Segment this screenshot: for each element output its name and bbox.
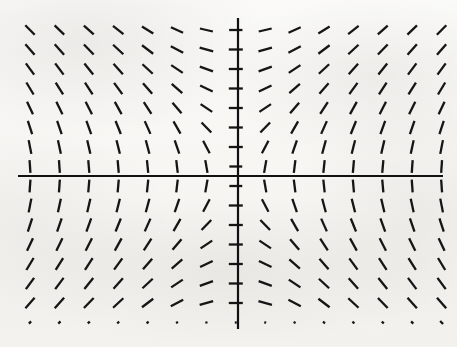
direction-element [88, 322, 90, 324]
direction-element [144, 102, 152, 114]
direction-element [56, 83, 63, 95]
direction-element [322, 199, 326, 213]
direction-element [321, 219, 327, 232]
direction-element [439, 102, 445, 115]
direction-element [410, 218, 415, 231]
direction-element [146, 199, 150, 213]
direction-element [352, 140, 355, 154]
direction-element [320, 239, 328, 251]
direction-element [259, 261, 272, 267]
direction-element [409, 102, 415, 115]
direction-element [408, 63, 416, 74]
direction-element [264, 160, 266, 173]
direction-element [380, 238, 386, 250]
direction-element [258, 301, 271, 305]
direction-element [84, 298, 94, 308]
direction-element [407, 25, 417, 34]
direction-element [146, 140, 150, 154]
direction-element [205, 160, 207, 173]
slope-field-plot [0, 0, 457, 347]
direction-element [290, 239, 299, 250]
direction-element [259, 104, 271, 112]
direction-element [171, 46, 183, 53]
direction-element [84, 44, 94, 54]
direction-element [172, 84, 183, 93]
direction-element [86, 121, 91, 134]
direction-element [87, 140, 90, 154]
direction-element [351, 219, 356, 232]
direction-element [113, 298, 123, 308]
direction-element [262, 199, 269, 211]
direction-element [29, 199, 32, 213]
direction-element [349, 64, 358, 74]
direction-element [56, 238, 62, 251]
direction-element [28, 121, 32, 134]
direction-element [55, 25, 65, 34]
direction-element [322, 140, 326, 154]
direction-element [411, 140, 414, 154]
direction-element [117, 199, 120, 213]
direction-element [289, 27, 301, 32]
direction-element [411, 321, 413, 323]
direction-element [205, 180, 207, 193]
direction-element [118, 160, 119, 173]
direction-element [142, 45, 153, 53]
direction-element [441, 160, 442, 173]
direction-element [318, 26, 329, 33]
direction-element [259, 67, 272, 72]
direction-element [55, 298, 64, 308]
direction-element [260, 220, 270, 230]
direction-element [441, 180, 442, 193]
direction-element [176, 160, 178, 173]
direction-element [323, 322, 325, 323]
direction-element [349, 83, 357, 94]
direction-element [172, 259, 183, 268]
direction-element [318, 45, 329, 53]
direction-element [382, 180, 383, 193]
direction-element [174, 219, 181, 231]
direction-element [200, 281, 213, 286]
direction-element [259, 241, 271, 249]
direction-element [323, 180, 324, 193]
direction-element [175, 140, 180, 153]
direction-element [378, 278, 387, 289]
direction-element [55, 63, 63, 74]
direction-element [84, 64, 93, 75]
direction-element [292, 140, 297, 153]
direction-element [294, 322, 296, 323]
direction-element [348, 298, 358, 308]
direction-element [87, 199, 90, 213]
direction-element [84, 26, 94, 35]
direction-element [258, 48, 271, 52]
direction-element [114, 278, 123, 288]
direction-element [319, 259, 328, 270]
direction-element [408, 83, 415, 95]
direction-element [202, 220, 212, 230]
direction-element [379, 258, 387, 270]
direction-element [408, 278, 416, 289]
direction-element [147, 322, 149, 323]
direction-element [352, 322, 354, 324]
direction-element [114, 258, 122, 269]
direction-element [380, 218, 385, 231]
direction-element [321, 121, 327, 134]
direction-element [145, 219, 151, 232]
direction-element [117, 140, 120, 154]
direction-element [142, 299, 153, 307]
direction-element [116, 219, 121, 232]
direction-element [440, 321, 443, 324]
direction-element [320, 102, 328, 114]
direction-element [348, 26, 358, 34]
direction-element [350, 102, 357, 114]
direction-element [381, 140, 384, 154]
direction-element [411, 199, 414, 213]
direction-element [408, 258, 415, 270]
direction-element [412, 180, 413, 193]
direction-element [439, 218, 443, 231]
direction-element [291, 121, 298, 133]
direction-element [117, 322, 119, 324]
direction-element [30, 180, 31, 193]
direction-element [437, 44, 446, 55]
direction-element [143, 83, 152, 94]
direction-element [379, 83, 387, 95]
